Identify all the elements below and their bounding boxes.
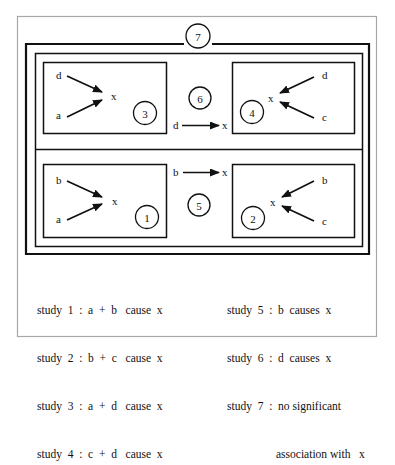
legend-item-study-4: study 4 : c + d cause x (37, 446, 163, 462)
legend-item-study-7: study 7 : no significant (227, 398, 365, 414)
source-label: d (173, 119, 179, 131)
middle-study-6: 6 d x (173, 87, 228, 131)
study-7-number: 7 (195, 31, 201, 43)
legend-item-study-6: study 6 : d causes x (227, 350, 365, 366)
source-label: b (56, 174, 62, 186)
study-2-number: 2 (250, 213, 256, 225)
target-label: x (111, 90, 117, 102)
source-label: d (56, 69, 62, 81)
middle-study-5: b x 5 (173, 166, 228, 216)
legend-item-study-5: study 5 : b causes x (227, 302, 365, 318)
source-label: c (322, 215, 327, 227)
source-label: d (322, 69, 328, 81)
study-6-number: 6 (197, 93, 203, 105)
target-label: x (112, 195, 118, 207)
arrow-icon (280, 102, 314, 118)
arrow-icon (67, 76, 102, 92)
source-label: c (322, 111, 327, 123)
target-label: x (222, 119, 228, 131)
panel-study-4: d c x 4 (233, 63, 355, 134)
target-label: x (268, 92, 274, 104)
panel-study-1: b a x 1 (44, 165, 167, 238)
source-label: b (322, 174, 328, 186)
target-label: x (270, 196, 276, 208)
source-label: b (173, 166, 179, 178)
arrow-icon (67, 181, 102, 197)
source-label: a (56, 109, 61, 121)
arrow-icon (67, 204, 102, 220)
legend-item-study-1: study 1 : a + b cause x (37, 302, 163, 318)
target-label: x (222, 166, 228, 178)
study-5-number: 5 (196, 200, 202, 212)
legend-item-study-2: study 2 : b + c cause x (37, 350, 163, 366)
panel-study-2: b c x 2 (233, 165, 355, 238)
source-label: a (56, 213, 61, 225)
arrow-icon (282, 206, 314, 221)
legend-left: study 1 : a + b cause x study 2 : b + c … (37, 270, 163, 465)
legend-item-study-3: study 3 : a + d cause x (37, 398, 163, 414)
legend-item-study-7-cont: association with x (227, 446, 365, 462)
legend-right: study 5 : b causes x study 6 : d causes … (227, 270, 365, 465)
study-3-number: 3 (142, 108, 148, 120)
study-1-number: 1 (144, 212, 150, 224)
panel-study-3: d a x 3 (44, 63, 167, 134)
study-4-number: 4 (249, 107, 255, 119)
arrow-icon (280, 77, 314, 93)
arrow-icon (282, 181, 314, 197)
arrow-icon (67, 100, 102, 117)
